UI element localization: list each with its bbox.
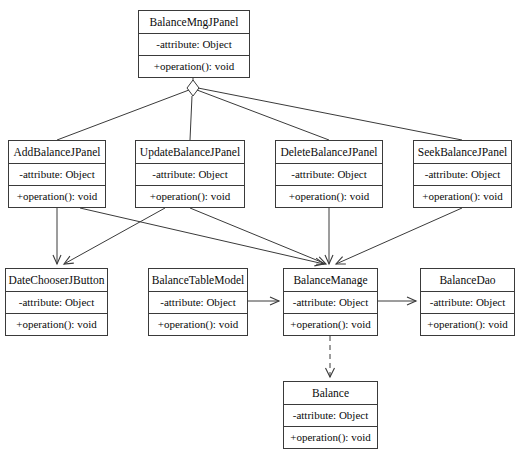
class-attribute: -attribute: Object (6, 292, 107, 313)
class-name: BalanceManage (284, 269, 377, 292)
class-operation: +operation(): void (136, 186, 244, 207)
class-box-balance-manage[interactable]: BalanceManage -attribute: Object +operat… (283, 268, 378, 336)
class-attribute: -attribute: Object (9, 164, 105, 185)
class-name: SeekBalanceJPanel (414, 141, 511, 164)
class-box-balance-table-model[interactable]: BalanceTableModel -attribute: Object +op… (148, 268, 248, 336)
class-operation: +operation(): void (414, 186, 511, 207)
edge-mng-seek (198, 88, 462, 140)
class-name: UpdateBalanceJPanel (136, 141, 244, 164)
uml-class-diagram: BalanceMngJPanel -attribute: Object +ope… (0, 0, 519, 452)
class-name: BalanceTableModel (149, 269, 247, 292)
class-box-add-balance-jpanel[interactable]: AddBalanceJPanel -attribute: Object +ope… (8, 140, 106, 208)
class-operation: +operation(): void (149, 314, 247, 335)
class-attribute: -attribute: Object (284, 292, 377, 313)
class-operation: +operation(): void (276, 186, 382, 207)
edge-mng-add (57, 90, 189, 140)
class-name: AddBalanceJPanel (9, 141, 105, 164)
class-box-seek-balance-jpanel[interactable]: SeekBalanceJPanel -attribute: Object +op… (413, 140, 512, 208)
class-name: Balance (284, 382, 377, 405)
class-box-balance-dao[interactable]: BalanceDao -attribute: Object +operation… (420, 268, 515, 336)
class-box-delete-balance-jpanel[interactable]: DeleteBalanceJPanel -attribute: Object +… (275, 140, 383, 208)
class-name: DeleteBalanceJPanel (276, 141, 382, 164)
class-attribute: -attribute: Object (149, 292, 247, 313)
class-attribute: -attribute: Object (414, 164, 511, 185)
class-operation: +operation(): void (421, 314, 514, 335)
class-name: BalanceDao (421, 269, 514, 292)
class-box-update-balance-jpanel[interactable]: UpdateBalanceJPanel -attribute: Object +… (135, 140, 245, 208)
class-attribute: -attribute: Object (284, 405, 377, 426)
class-box-balance-mng-jpanel[interactable]: BalanceMngJPanel -attribute: Object +ope… (138, 10, 250, 78)
edge-aggregation-group (57, 78, 462, 140)
relationship-edge-layer (0, 0, 519, 452)
class-operation: +operation(): void (9, 186, 105, 207)
edge-mng-delete (197, 90, 329, 140)
class-attribute: -attribute: Object (136, 164, 244, 185)
class-operation: +operation(): void (139, 56, 249, 77)
class-attribute: -attribute: Object (421, 292, 514, 313)
class-operation: +operation(): void (284, 314, 377, 335)
edge-add-to-manage (80, 208, 324, 264)
class-box-date-chooser-jbutton[interactable]: DateChooserJButton -attribute: Object +o… (5, 268, 108, 336)
edge-update-to-manage (190, 208, 326, 264)
aggregation-diamond-icon (187, 80, 199, 96)
class-attribute: -attribute: Object (139, 34, 249, 55)
edge-seek-to-manage (336, 208, 462, 264)
class-box-balance[interactable]: Balance -attribute: Object +operation():… (283, 381, 378, 449)
class-operation: +operation(): void (6, 314, 107, 335)
class-operation: +operation(): void (284, 427, 377, 448)
class-name: DateChooserJButton (6, 269, 107, 292)
edge-mng-update (190, 96, 192, 140)
class-name: BalanceMngJPanel (139, 11, 249, 34)
class-attribute: -attribute: Object (276, 164, 382, 185)
